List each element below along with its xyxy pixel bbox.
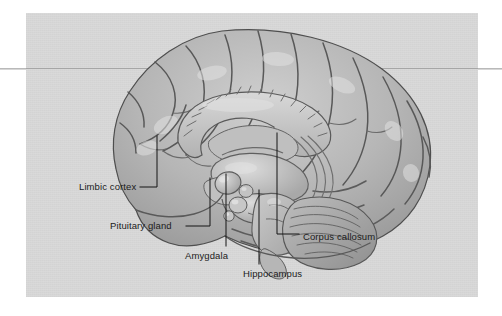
mammillary-body [239, 185, 253, 198]
brain-illustration [26, 13, 478, 297]
callout-label-hippocampus: Hippocampus [243, 268, 302, 279]
hippocampus-head [229, 197, 247, 213]
callout-label-corpus-callosum: Corpus callosum [303, 231, 375, 242]
callout-label-pituitary-gland: Pituitary gland [110, 220, 172, 231]
illustration-plate [26, 13, 478, 297]
callout-label-limbic-cortex: Limbic cortex [79, 181, 136, 192]
figure-root: Limbic cortex Pituitary gland Amygdala H… [0, 0, 502, 316]
callout-label-amygdala: Amygdala [185, 250, 228, 261]
